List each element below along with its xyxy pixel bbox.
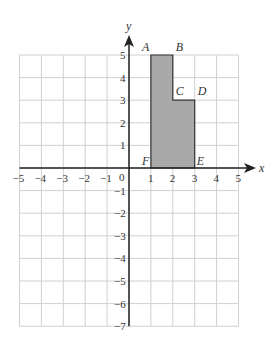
polygon-abcdef: [151, 55, 195, 168]
vertex-label-b: B: [176, 40, 184, 54]
y-tick-label: 2: [120, 117, 126, 129]
x-tick-label: 2: [170, 172, 176, 184]
x-tick-label: −3: [56, 172, 68, 184]
y-tick-label: −6: [114, 298, 126, 310]
x-tick-label: −1: [100, 172, 112, 184]
x-axis-label: x: [258, 161, 265, 175]
x-tick-label: −2: [78, 172, 90, 184]
vertex-label-a: A: [141, 40, 150, 54]
x-tick-label: 4: [214, 172, 220, 184]
y-axis-label: y: [125, 19, 132, 33]
vertex-label-f: F: [141, 154, 150, 168]
y-tick-label: 1: [120, 139, 126, 151]
origin-label: 0: [119, 171, 125, 183]
vertex-label-e: E: [196, 154, 205, 168]
vertex-label-c: C: [176, 84, 185, 98]
y-tick-label: 5: [120, 49, 126, 61]
y-tick-label: −4: [114, 252, 126, 264]
y-tick-label: 3: [120, 94, 126, 106]
y-tick-label: −5: [114, 275, 126, 287]
shaded-polygon: [151, 55, 195, 168]
y-tick-label: −7: [114, 320, 126, 332]
coordinate-grid: xy −5−4−3−2−11234554321−1−2−3−4−5−6−70 A…: [0, 0, 273, 344]
y-tick-label: −1: [114, 185, 126, 197]
y-tick-label: 4: [120, 72, 126, 84]
x-tick-label: 1: [148, 172, 154, 184]
y-tick-label: −2: [114, 207, 126, 219]
vertex-label-d: D: [197, 84, 207, 98]
x-tick-label: 3: [192, 172, 198, 184]
x-tick-label: 5: [236, 172, 242, 184]
x-tick-label: −4: [34, 172, 46, 184]
y-tick-label: −3: [114, 230, 126, 242]
x-tick-label: −5: [13, 172, 25, 184]
